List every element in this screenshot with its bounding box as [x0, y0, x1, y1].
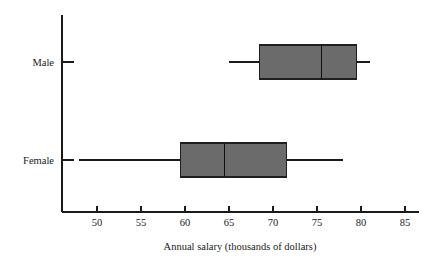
x-tick-label-85: 85 — [400, 217, 411, 228]
x-tick-label-75: 75 — [312, 217, 323, 228]
x-tick-label-80: 80 — [356, 217, 367, 228]
x-axis-title: Annual salary (thousands of dollars) — [164, 241, 317, 253]
x-tick-label-70: 70 — [268, 217, 279, 228]
x-tick-label-65: 65 — [224, 217, 235, 228]
x-tick-label-55: 55 — [136, 217, 147, 228]
y-tick-label-male: Male — [32, 57, 54, 68]
y-tick-label-female: Female — [23, 155, 54, 166]
box-male — [260, 45, 357, 79]
x-tick-label-50: 50 — [92, 217, 103, 228]
box-female — [181, 143, 287, 177]
box-plot-chart: 5055606570758085 MaleFemale Annual salar… — [0, 0, 429, 262]
x-tick-label-60: 60 — [180, 217, 191, 228]
chart-canvas: 5055606570758085 MaleFemale Annual salar… — [0, 0, 429, 262]
